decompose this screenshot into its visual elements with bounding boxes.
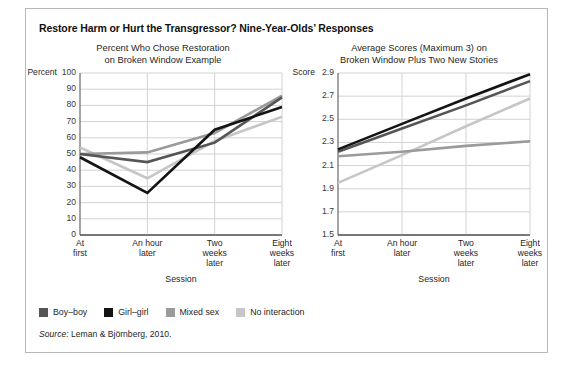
legend-item[interactable]: No interaction (236, 307, 304, 317)
y-tick-label: 2.7 (322, 90, 334, 100)
y-tick-label: 60 (66, 132, 76, 142)
x-tick-label-line: first (312, 248, 364, 258)
chart-subtitle-right: Average Scores (Maximum 3) on Broken Win… (294, 43, 544, 66)
legend-swatch-icon (236, 308, 245, 317)
chart-subtitle-right-line1: Average Scores (Maximum 3) on (294, 43, 544, 55)
x-tick-label-line: later (121, 248, 173, 258)
y-tick-label: 90 (66, 83, 76, 93)
legend-swatch-icon (104, 308, 113, 317)
legend-label: Mixed sex (180, 307, 220, 317)
y-axis-title: Percent (27, 67, 57, 77)
x-tick-label-line: Eight (504, 238, 556, 248)
y-tick-label: 30 (66, 180, 76, 190)
legend-item[interactable]: Boy–boy (39, 307, 87, 317)
y-tick-label: 2.5 (322, 113, 334, 123)
legend-swatch-icon (39, 308, 48, 317)
x-tick-label: Atfirst (312, 238, 364, 258)
x-tick-label: An hourlater (121, 238, 173, 258)
series-line (80, 96, 282, 154)
x-tick-label-line: An hour (376, 238, 428, 248)
x-tick-label: An hourlater (376, 238, 428, 258)
series-line (338, 141, 530, 156)
x-tick-label-line: later (504, 258, 556, 268)
plot-area-right: 1.51.71.92.12.32.52.72.9ScoreAtfirstAn h… (294, 69, 544, 295)
series-line (80, 107, 282, 193)
x-tick-label: Twoweekslater (189, 238, 241, 269)
y-tick-label: 70 (66, 116, 76, 126)
chart-subtitle-left: Percent Who Chose Restoration on Broken … (32, 43, 294, 66)
y-tick-label: 2.9 (322, 67, 334, 77)
chart-panel-score: Average Scores (Maximum 3) on Broken Win… (294, 43, 544, 295)
y-tick-label: 2.1 (322, 160, 334, 170)
x-tick-label-line: Two (440, 238, 492, 248)
y-tick-label: 1.9 (322, 183, 334, 193)
legend-label: No interaction (250, 307, 304, 317)
y-tick-label: 1.7 (322, 206, 334, 216)
x-tick-label-line: At (312, 238, 364, 248)
x-tick-label-line: weeks (440, 248, 492, 258)
x-tick-label-line: An hour (121, 238, 173, 248)
x-tick-label: Twoweekslater (440, 238, 492, 269)
x-axis-title: Session (338, 274, 530, 284)
figure-container: Restore Harm or Hurt the Transgressor? N… (25, 8, 548, 353)
chart-panel-percent: Percent Who Chose Restoration on Broken … (32, 43, 294, 295)
legend-swatch-icon (166, 308, 175, 317)
y-tick-label: 80 (66, 99, 76, 109)
source-note: Source: Leman & Björnberg, 2010. (39, 329, 171, 339)
legend-item[interactable]: Mixed sex (166, 307, 220, 317)
chart-legend: Boy–boyGirl–girlMixed sexNo interaction (39, 305, 321, 319)
x-tick-label-line: At (54, 238, 106, 248)
legend-label: Boy–boy (53, 307, 87, 317)
chart-subtitle-left-line1: Percent Who Chose Restoration (32, 43, 294, 55)
y-axis-title: Score (293, 67, 315, 77)
x-tick-label-line: later (440, 258, 492, 268)
legend-item[interactable]: Girl–girl (104, 307, 148, 317)
x-tick-label-line: later (376, 248, 428, 258)
legend-label: Girl–girl (118, 307, 148, 317)
y-tick-label: 50 (66, 148, 76, 158)
y-tick-label: 2.3 (322, 136, 334, 146)
y-tick-label: 40 (66, 164, 76, 174)
x-tick-label-line: weeks (504, 248, 556, 258)
y-tick-label: 100 (62, 67, 76, 77)
plot-area-left: 0102030405060708090100PercentAtfirstAn h… (32, 69, 294, 295)
x-tick-label-line: Two (189, 238, 241, 248)
y-tick-label: 20 (66, 197, 76, 207)
x-tick-label-line: first (54, 248, 106, 258)
chart-subtitle-left-line2: on Broken Window Example (32, 55, 294, 67)
source-text: Leman & Björnberg, 2010. (69, 329, 172, 339)
figure-title: Restore Harm or Hurt the Transgressor? N… (39, 22, 373, 34)
chart-subtitle-right-line2: Broken Window Plus Two New Stories (294, 55, 544, 67)
x-tick-label: Eightweekslater (504, 238, 556, 269)
x-tick-label: Atfirst (54, 238, 106, 258)
x-tick-label-line: later (189, 258, 241, 268)
x-tick-label-line: weeks (189, 248, 241, 258)
y-tick-label: 10 (66, 213, 76, 223)
series-line (80, 117, 282, 179)
x-axis-title: Session (80, 274, 282, 284)
source-label: Source: (39, 329, 69, 339)
